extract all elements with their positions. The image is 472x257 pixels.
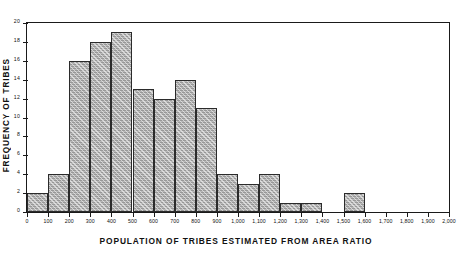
x-tick bbox=[69, 212, 70, 217]
histogram-bar bbox=[154, 99, 175, 212]
histogram-bar bbox=[196, 108, 217, 212]
x-tick-label: 300 bbox=[86, 218, 95, 224]
histogram-bar bbox=[90, 42, 111, 212]
y-tick-label: 2 bbox=[17, 188, 20, 194]
x-tick-label: 1,700 bbox=[379, 218, 392, 224]
x-tick-label: 1,200 bbox=[273, 218, 286, 224]
y-tick-label: 4 bbox=[17, 169, 20, 175]
x-tick-label: 400 bbox=[107, 218, 116, 224]
x-tick bbox=[27, 212, 28, 217]
histogram-bar bbox=[27, 193, 48, 212]
x-axis-title: POPULATION OF TRIBES ESTIMATED FROM AREA… bbox=[0, 236, 472, 246]
histogram-bar bbox=[69, 61, 90, 212]
x-tick bbox=[259, 212, 260, 217]
x-tick bbox=[111, 212, 112, 217]
y-tick-label: 8 bbox=[17, 131, 20, 137]
y-tick: 12 bbox=[23, 99, 28, 100]
histogram-bar bbox=[111, 32, 132, 212]
x-tick-label: 600 bbox=[149, 218, 158, 224]
x-tick-label: 200 bbox=[65, 218, 74, 224]
y-tick-label: 18 bbox=[14, 37, 20, 43]
x-tick-label: 100 bbox=[44, 218, 53, 224]
x-tick bbox=[196, 212, 197, 217]
x-tick-label: 700 bbox=[170, 218, 179, 224]
x-tick-label: 1,400 bbox=[316, 218, 329, 224]
y-tick: 2 bbox=[23, 193, 28, 194]
histogram-bar bbox=[301, 203, 322, 212]
x-tick-label: 800 bbox=[191, 218, 200, 224]
histogram-bar bbox=[238, 184, 259, 212]
histogram-bar bbox=[344, 193, 365, 212]
y-axis-title: FREQUENCY OF TRIBES bbox=[2, 58, 16, 172]
histogram-bar bbox=[48, 174, 69, 212]
x-tick bbox=[428, 212, 429, 217]
x-tick-label: 1,300 bbox=[295, 218, 308, 224]
x-tick bbox=[322, 212, 323, 217]
x-tick-label: 900 bbox=[212, 218, 221, 224]
x-tick bbox=[217, 212, 218, 217]
histogram-bar bbox=[133, 89, 154, 212]
x-tick bbox=[48, 212, 49, 217]
x-tick bbox=[280, 212, 281, 217]
histogram-bar bbox=[175, 80, 196, 212]
histogram-figure: 02468101214161820 0100200300400500600700… bbox=[0, 0, 472, 257]
x-tick bbox=[407, 212, 408, 217]
plot-area: 02468101214161820 bbox=[27, 23, 449, 212]
x-tick-label: 1,000 bbox=[231, 218, 244, 224]
x-tick-label: 0 bbox=[26, 218, 29, 224]
x-tick-label: 500 bbox=[128, 218, 137, 224]
x-tick bbox=[238, 212, 239, 217]
x-tick bbox=[133, 212, 134, 217]
x-tick-label: 1,100 bbox=[252, 218, 265, 224]
x-tick bbox=[344, 212, 345, 217]
y-tick-label: 6 bbox=[17, 150, 20, 156]
y-tick: 20 bbox=[23, 23, 28, 24]
y-tick: 14 bbox=[23, 80, 28, 81]
bar-series bbox=[27, 23, 449, 212]
x-tick bbox=[386, 212, 387, 217]
x-tick bbox=[154, 212, 155, 217]
x-tick-label: 1,500 bbox=[337, 218, 350, 224]
x-tick-label: 1,800 bbox=[400, 218, 413, 224]
histogram-bar bbox=[259, 174, 280, 212]
x-tick-label: 2,000 bbox=[442, 218, 455, 224]
y-tick-label: 20 bbox=[14, 18, 20, 24]
y-tick-label: 0 bbox=[17, 207, 20, 213]
y-tick: 10 bbox=[23, 118, 28, 119]
x-axis-ticks: 01002003004005006007008009001,0001,1001,… bbox=[27, 212, 449, 232]
histogram-bar bbox=[217, 174, 238, 212]
x-tick bbox=[365, 212, 366, 217]
histogram-bar bbox=[280, 203, 301, 212]
x-tick bbox=[90, 212, 91, 217]
x-tick bbox=[301, 212, 302, 217]
x-tick bbox=[449, 212, 450, 217]
y-tick: 18 bbox=[23, 42, 28, 43]
x-tick-label: 1,900 bbox=[421, 218, 434, 224]
y-tick: 16 bbox=[23, 61, 28, 62]
y-tick: 4 bbox=[23, 174, 28, 175]
x-tick bbox=[175, 212, 176, 217]
y-tick: 8 bbox=[23, 136, 28, 137]
y-tick: 6 bbox=[23, 155, 28, 156]
x-tick-label: 1,600 bbox=[358, 218, 371, 224]
